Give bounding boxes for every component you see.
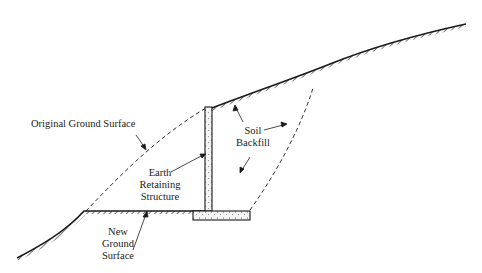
label-surface: Surface — [98, 250, 138, 262]
label-retaining: Retaining — [132, 179, 188, 191]
label-ground: Ground — [98, 238, 138, 250]
label-soil: Soil — [228, 125, 278, 137]
label-soil-backfill: Soil Backfill — [228, 125, 278, 149]
retaining-wall-footing — [193, 211, 250, 220]
label-earth-retaining-structure: Earth Retaining Structure — [132, 167, 188, 203]
label-new-ground-surface: New Ground Surface — [98, 226, 138, 262]
upper-ground-surface — [212, 24, 466, 111]
label-original-ground-surface: Original Ground Surface — [31, 118, 135, 130]
retaining-wall-stem — [205, 107, 212, 211]
label-new: New — [98, 226, 138, 238]
retaining-wall-diagram: Original Ground Surface Soil Backfill Ea… — [0, 0, 482, 273]
label-structure: Structure — [132, 191, 188, 203]
label-earth: Earth — [132, 167, 188, 179]
label-backfill: Backfill — [228, 137, 278, 149]
backfill-limit-dashed-line — [250, 88, 313, 210]
